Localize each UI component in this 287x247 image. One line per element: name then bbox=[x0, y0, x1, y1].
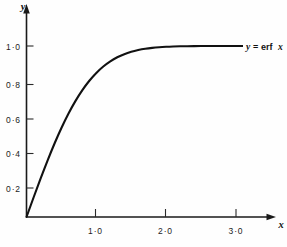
x-axis-label: x bbox=[277, 219, 283, 230]
curve-label-y: y bbox=[245, 42, 251, 52]
erf-plot: 1·0 0·8 0·6 0·4 0·2 1·0 2·0 3·0 y x y = … bbox=[0, 0, 287, 247]
y-ticklabel-0-8: 0·8 bbox=[6, 80, 21, 90]
figure-container: 1·0 0·8 0·6 0·4 0·2 1·0 2·0 3·0 y x y = … bbox=[0, 0, 287, 247]
y-ticklabel-0-4: 0·4 bbox=[6, 149, 21, 159]
curve-label-erf: erf bbox=[261, 42, 274, 52]
y-ticklabel-1-0: 1·0 bbox=[6, 42, 21, 52]
y-ticklabel-0-2: 0·2 bbox=[6, 184, 21, 194]
y-ticklabel-0-6: 0·6 bbox=[6, 115, 21, 125]
x-ticklabel-1-0: 1·0 bbox=[88, 226, 103, 236]
x-axis-arrowhead bbox=[267, 214, 277, 221]
x-ticklabel-2-0: 2·0 bbox=[158, 226, 173, 236]
x-ticklabel-3-0: 3·0 bbox=[229, 226, 244, 236]
y-axis-label: y bbox=[19, 1, 26, 12]
curve-label-x: x bbox=[277, 42, 283, 52]
curve-label-equals: = bbox=[253, 42, 258, 52]
erf-curve bbox=[27, 46, 237, 217]
